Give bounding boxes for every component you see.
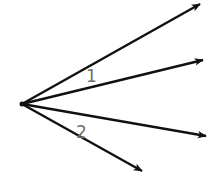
ray-a — [22, 4, 200, 104]
angle-diagram: 1 2 — [0, 0, 223, 181]
angle-label-1: 1 — [86, 66, 97, 86]
angle-label-2: 2 — [76, 122, 87, 142]
ray-b — [22, 60, 203, 104]
vertex-point — [20, 102, 25, 107]
diagram-svg: 1 2 — [0, 0, 223, 181]
